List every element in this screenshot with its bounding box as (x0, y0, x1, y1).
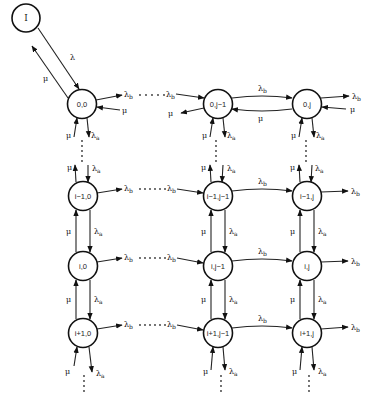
state-node-label: i,0 (79, 262, 87, 271)
svg-text:μ: μ (67, 163, 72, 172)
state-node: i,0 (69, 252, 98, 281)
svg-text:λb: λb (167, 253, 176, 263)
svg-text:μ: μ (201, 227, 206, 236)
vertical-ellipsis-row0 (81, 140, 307, 162)
svg-text:μ: μ (203, 367, 208, 376)
svg-text:λa: λa (318, 227, 327, 237)
edge-in-lambda-b (176, 94, 204, 98)
svg-text:λb: λb (351, 187, 360, 197)
svg-text:λa: λa (315, 164, 324, 174)
svg-text:λa: λa (229, 367, 238, 377)
row-i-1-top-stubs: μ λa μ λa μ λa (67, 163, 324, 182)
svg-text:μ: μ (292, 367, 297, 376)
svg-text:λa: λa (227, 164, 236, 174)
edge-00-out-lambda-b (96, 95, 122, 100)
state-node: i−1,j−1 (204, 182, 233, 211)
state-node-label: i,j−1 (211, 262, 225, 271)
edge-00-to-I (32, 46, 68, 98)
state-node-label: i,j (304, 262, 310, 271)
svg-text:λa: λa (229, 227, 238, 237)
label-mu: μ (350, 105, 355, 114)
state-node: i+1,0 (69, 319, 98, 348)
state-node: 0,j−1 (204, 90, 233, 119)
vertical-ellipsis-bottom (83, 375, 310, 392)
svg-text:λa: λa (318, 367, 327, 377)
state-node: I (12, 4, 40, 32)
svg-text:λa: λa (91, 131, 100, 141)
state-node: i+1,j−1 (204, 319, 233, 348)
svg-text:μ: μ (66, 131, 71, 140)
svg-text:μ: μ (65, 367, 70, 376)
svg-text:μ: μ (290, 163, 295, 172)
vertical-edges: μ λa μ λa μ λa μ λa μ λa μ λa (66, 210, 327, 319)
svg-text:λb: λb (351, 257, 360, 267)
edge-mu-into-0j (322, 107, 346, 109)
state-node: 0,j (293, 90, 322, 119)
edge-0j-to-0j1 (232, 109, 292, 111)
state-node-label: i−1,0 (75, 192, 91, 201)
row-0-vertical-stubs: μ λa μ λa μ λa (66, 118, 325, 141)
svg-text:μ: μ (290, 295, 295, 304)
svg-text:λb: λb (167, 184, 176, 194)
state-node-label: i+1,0 (75, 329, 91, 338)
svg-text:λb: λb (124, 320, 133, 330)
state-node: i+1,j (293, 319, 322, 348)
state-node-label: 0,j (303, 100, 311, 109)
svg-text:λb: λb (351, 323, 360, 333)
svg-text:μ: μ (201, 163, 206, 172)
label-mu: μ (168, 109, 173, 118)
svg-text:λa: λa (92, 164, 101, 174)
edge-mu-into-00 (97, 107, 120, 110)
svg-text:λb: λb (167, 320, 176, 330)
svg-text:λb: λb (258, 247, 267, 257)
state-node-label: i−1,j (300, 192, 314, 201)
label-mu: μ (122, 106, 127, 115)
svg-text:λb: λb (124, 184, 133, 194)
svg-text:λa: λa (96, 369, 105, 379)
label-mu: μ (258, 114, 263, 123)
svg-text:λa: λa (229, 295, 238, 305)
state-node: i−1,j (293, 182, 322, 211)
svg-text:λa: λa (94, 227, 103, 237)
svg-text:λa: λa (316, 131, 325, 141)
state-node: i,j (293, 252, 322, 281)
horizontal-ellipsis (139, 94, 165, 96)
state-node-label: 0,0 (77, 100, 87, 109)
label-lambda-b: λb (166, 90, 175, 100)
svg-text:μ: μ (201, 295, 206, 304)
state-node-label: i+1,j (300, 329, 314, 338)
svg-text:λa: λa (227, 131, 236, 141)
svg-text:μ: μ (66, 227, 71, 236)
state-node: i,j−1 (204, 252, 233, 281)
svg-text:λb: λb (258, 314, 267, 324)
label-lambda-b: λb (124, 90, 133, 100)
svg-text:μ: μ (290, 227, 295, 236)
svg-text:λb: λb (258, 177, 267, 187)
label-lambda: λ (70, 53, 75, 62)
label-lambda-b: λb (352, 92, 361, 102)
state-node: 0,0 (68, 90, 97, 119)
svg-text:λa: λa (318, 295, 327, 305)
svg-text:μ: μ (66, 295, 71, 304)
label-lambda-b: λb (258, 84, 267, 94)
svg-text:λa: λa (94, 295, 103, 305)
edge-0j1-to-0j (232, 96, 292, 98)
edge-mu-out-0j1 (181, 108, 204, 113)
svg-text:λb: λb (124, 253, 133, 263)
state-node: i−1,0 (69, 182, 98, 211)
row-i+1-bottom-stubs: μ λa μ λa μ λa (65, 347, 327, 379)
edge-group-idle: λ μ (32, 28, 79, 98)
state-node-label: I (24, 13, 28, 23)
label-mu: μ (43, 74, 48, 83)
state-node-label: i+1,j−1 (207, 329, 230, 338)
state-node-label: 0,j−1 (210, 100, 226, 109)
svg-text:μ: μ (202, 131, 207, 140)
edge-0j-out-lambda-b (321, 96, 349, 98)
state-node-label: i−1,j−1 (207, 192, 230, 201)
markov-chain-diagram: λ μ λb λb μ μ λb μ λb μ μ λa μ (0, 0, 379, 414)
state-nodes: I0,00,j−10,ji−1,0i−1,j−1i−1,ji,0i,j−1i,j… (12, 4, 322, 348)
svg-text:μ: μ (291, 131, 296, 140)
